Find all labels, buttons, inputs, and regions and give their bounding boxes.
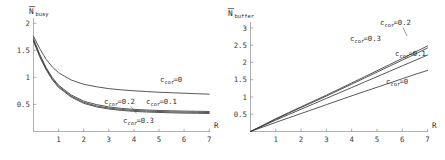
x-axis-ticks: [59, 129, 210, 132]
y-axis-label-n-buffer: N buffer: [228, 9, 255, 19]
x-axis-tick-labels: 1 2 3 4 5 6 7: [274, 135, 430, 144]
curve-c-cor-0-2: [251, 48, 428, 132]
y-axis-label-subscript: busy: [36, 11, 50, 18]
y-tick-label: 2.5: [234, 41, 247, 50]
plot-panel-n-buffer: N buffer 3 2.5 2 1.5 1: [223, 0, 445, 160]
x-tick-label: 1: [56, 135, 60, 144]
x-tick-label: 7: [207, 135, 211, 144]
y-axis-tick-labels: 2 1.5 1 0.5: [17, 19, 30, 109]
annotation-value: =0: [174, 75, 183, 84]
y-axis-tick-labels: 3 2.5 2 1.5 1 0.5: [234, 24, 247, 119]
x-tick-label: 4: [349, 135, 354, 144]
y-tick-label: 3: [243, 24, 247, 33]
annotation-value: =0: [400, 77, 409, 86]
annotation-c-cor-01: c cor =0.1: [146, 97, 177, 107]
plot-panel-n-busy: N busy 2 1.5 1 0.5: [0, 0, 222, 160]
x-tick-label: 7: [425, 135, 429, 144]
figure-two-panel-plot: N busy 2 1.5 1 0.5: [0, 0, 445, 160]
y-tick-label: 1.5: [234, 75, 247, 84]
y-tick-label: 2: [26, 19, 30, 28]
x-tick-label: 3: [107, 135, 111, 144]
x-axis-label: R: [432, 121, 437, 130]
x-tick-label: 4: [132, 135, 137, 144]
annotation-value: =0.2: [394, 18, 411, 27]
x-tick-label: 5: [375, 135, 379, 144]
y-tick-label: 1.5: [17, 46, 30, 55]
y-tick-label: 0.5: [234, 110, 247, 119]
annotation-c-cor-03: c cor =0.3: [350, 34, 381, 44]
annotation-leader-line: [403, 28, 407, 37]
y-tick-label: 1: [26, 73, 30, 82]
plot-svg-n-buffer: N buffer 3 2.5 2 1.5 1: [223, 0, 445, 160]
plot-svg-n-busy: N busy 2 1.5 1 0.5: [0, 0, 222, 160]
y-axis-ticks: [34, 23, 37, 104]
y-tick-label: 1: [243, 93, 247, 102]
y-axis-label-main: N: [228, 9, 233, 18]
annotation-value: =0.3: [364, 34, 381, 43]
x-tick-label: 2: [81, 135, 85, 144]
x-tick-label: 5: [157, 135, 161, 144]
x-tick-label: 6: [400, 135, 404, 144]
y-axis-label-main: N: [29, 7, 34, 16]
annotation-value: =0.1: [160, 97, 177, 106]
y-tick-label: 2: [243, 58, 247, 67]
x-tick-label: 2: [299, 135, 303, 144]
annotation-c-cor-02: c cor =0.2: [380, 18, 411, 36]
x-axis-ticks: [276, 129, 428, 132]
annotation-value: =0.3: [137, 116, 154, 125]
annotation-value: =0.2: [118, 97, 135, 106]
annotation-c-cor-01: c cor =0.1: [395, 49, 426, 59]
y-axis-ticks: [251, 28, 254, 114]
curve-c-cor-0: [34, 36, 210, 94]
x-tick-label: 1: [274, 135, 278, 144]
annotation-c-cor-0: c cor =0: [386, 77, 408, 87]
x-tick-label: 3: [324, 135, 328, 144]
x-tick-label: 6: [182, 135, 186, 144]
y-axis-label-n-busy: N busy: [29, 7, 49, 18]
y-axis-label-subscript: buffer: [235, 13, 255, 19]
y-tick-label: 0.5: [17, 100, 30, 109]
curve-c-cor-0-1: [251, 55, 428, 131]
annotation-c-cor-0: c cor =0: [160, 75, 182, 85]
x-axis-tick-labels: 1 2 3 4 5 6 7: [56, 135, 211, 144]
annotation-c-cor-03: c cor =0.3: [123, 116, 154, 126]
x-axis-label: R: [214, 121, 219, 130]
annotation-value: =0.1: [409, 49, 426, 58]
